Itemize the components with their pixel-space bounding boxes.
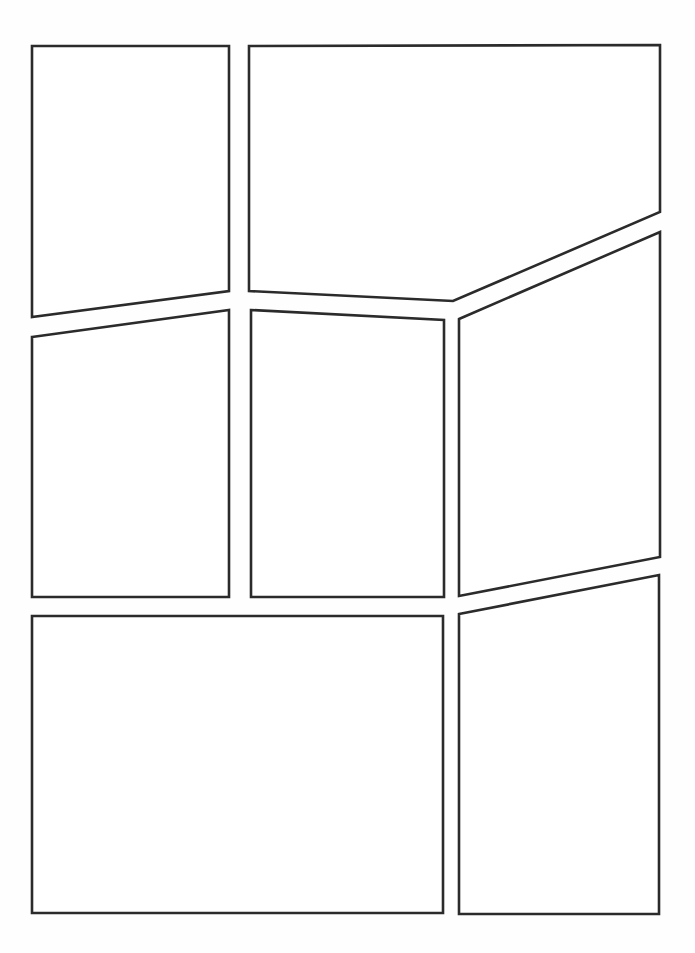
panel-7	[459, 575, 659, 914]
panel-3	[32, 310, 229, 597]
comic-page	[0, 0, 695, 953]
panel-6	[32, 616, 443, 913]
panel-1	[32, 46, 229, 317]
panel-4	[251, 310, 444, 597]
comic-panel-layout	[0, 0, 695, 953]
